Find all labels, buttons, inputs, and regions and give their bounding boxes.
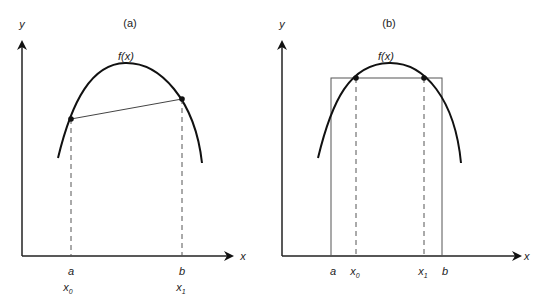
label-a-b: a xyxy=(330,265,336,277)
label-b-b: b xyxy=(442,265,448,277)
secant-line xyxy=(71,99,182,119)
x-axis-label-b: x xyxy=(523,250,530,262)
label-x1-a: x1 xyxy=(175,281,186,295)
label-x0-b: x0 xyxy=(349,265,360,279)
diagram-canvas: (a) f(x) y x a x0 b x1 (b) f(x) y x a x0… xyxy=(0,0,542,304)
panel-b: (b) f(x) y x a x0 x1 b xyxy=(278,17,530,279)
label-x1-b: x1 xyxy=(417,265,428,279)
point-x1-b xyxy=(421,75,427,81)
y-axis-label-b: y xyxy=(278,18,286,30)
point-x0-b xyxy=(353,75,359,81)
function-label-b: f(x) xyxy=(378,50,394,62)
point-x0-a xyxy=(68,116,74,122)
label-b-a: b xyxy=(179,265,185,277)
label-x0-a: x0 xyxy=(62,281,73,295)
curve-a xyxy=(58,63,202,163)
rectangle-b xyxy=(331,78,442,256)
point-x1-a xyxy=(179,96,185,102)
function-label-a: f(x) xyxy=(118,50,134,62)
y-axis-label-a: y xyxy=(18,18,26,30)
label-a-a: a xyxy=(68,265,74,277)
panel-a: (a) f(x) y x a x0 b x1 xyxy=(18,17,246,295)
panel-title-a: (a) xyxy=(123,17,136,29)
panel-title-b: (b) xyxy=(382,17,395,29)
x-axis-label-a: x xyxy=(239,250,246,262)
